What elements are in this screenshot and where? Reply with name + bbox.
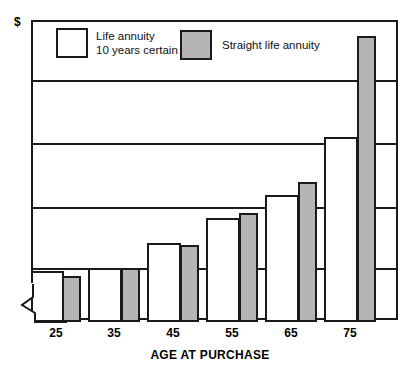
bar-35-straight-life-annuity[interactable]	[121, 268, 140, 322]
x-axis-title: AGE AT PURCHASE	[0, 348, 420, 362]
legend-label-straight-life-annuity: Straight life annuity	[222, 38, 320, 52]
legend-swatch-gray-icon	[180, 30, 212, 60]
bar-45-life-annuity-10-years-certain[interactable]	[147, 243, 181, 322]
x-tick-label-3: 55	[212, 327, 252, 339]
legend-label-life-annuity: Life annuity 10 years certain	[96, 29, 178, 58]
bar-65-life-annuity-10-years-certain[interactable]	[265, 195, 299, 322]
x-tick-label-2: 45	[153, 327, 193, 339]
bar-55-life-annuity-10-years-certain[interactable]	[206, 218, 240, 322]
bar-75-life-annuity-10-years-certain[interactable]	[324, 137, 358, 322]
axis-break-icon	[20, 283, 68, 323]
bar-45-straight-life-annuity[interactable]	[180, 245, 199, 322]
y-axis-unit-label: $	[14, 16, 21, 28]
bar-55-straight-life-annuity[interactable]	[239, 213, 258, 322]
legend-swatch-white-icon	[56, 28, 88, 58]
gridline-1	[31, 80, 398, 82]
x-tick-label-0: 25	[36, 327, 76, 339]
bar-35-life-annuity-10-years-certain[interactable]	[88, 268, 122, 322]
legend-item-life-annuity-10-years-certain[interactable]: Life annuity 10 years certain	[56, 28, 178, 58]
legend-label-line-2: 10 years certain	[96, 44, 178, 56]
legend-item-straight-life-annuity[interactable]: Straight life annuity	[180, 30, 320, 60]
legend-label-line-1: Life annuity	[96, 30, 155, 42]
x-tick-label-5: 75	[330, 327, 370, 339]
bar-75-straight-life-annuity[interactable]	[357, 36, 376, 322]
x-tick-label-1: 35	[94, 327, 134, 339]
bar-65-straight-life-annuity[interactable]	[298, 182, 317, 322]
bar-chart: $ 25 35 45 55 65 75 AGE AT PURCHASE Life	[0, 0, 420, 374]
x-tick-label-4: 65	[271, 327, 311, 339]
